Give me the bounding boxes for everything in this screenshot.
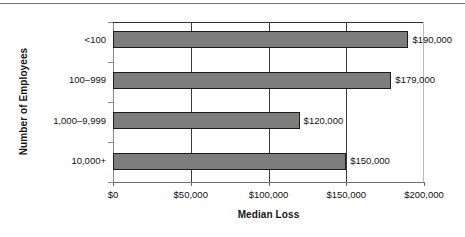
x-tick-label-0: $0 (108, 189, 119, 200)
bar-0 (113, 31, 408, 48)
x-tick-mark-1 (191, 182, 192, 186)
x-tick-label-4: $200,000 (404, 189, 444, 200)
value-label-1: $179,000 (395, 74, 435, 85)
x-axis-title: Median Loss (113, 209, 424, 220)
value-label-3: $150,000 (350, 155, 390, 166)
bar-2 (113, 112, 300, 129)
y-tick-label-0: <100 (0, 34, 106, 45)
x-tick-mark-4 (424, 182, 425, 186)
y-tick-label-1: 100–999 (0, 74, 106, 85)
x-tick-label-3: $150,000 (326, 189, 366, 200)
x-tick-label-1: $50,000 (174, 189, 208, 200)
value-label-2: $120,000 (304, 115, 344, 126)
y-tick-label-2: 1,000–9,999 (0, 115, 106, 126)
y-tick-label-3: 10,000+ (0, 155, 106, 166)
plot-right-border (423, 22, 424, 182)
x-tick-mark-0 (113, 182, 114, 186)
top-divider-rule (0, 3, 465, 4)
x-tick-mark-3 (346, 182, 347, 186)
bar-3 (113, 153, 346, 170)
x-tick-label-2: $100,000 (249, 189, 289, 200)
chart-figure: Number of Employees <100 100–999 1,000–9… (0, 0, 465, 237)
value-label-0: $190,000 (412, 34, 452, 45)
bar-1 (113, 72, 391, 89)
x-tick-mark-2 (269, 182, 270, 186)
